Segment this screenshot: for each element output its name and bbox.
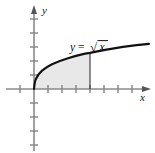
y-axis-label: y xyxy=(41,4,47,16)
x-axis-label: x xyxy=(139,91,145,103)
figure-container: y x y = √ x xyxy=(0,0,155,153)
equation-operator: = xyxy=(78,41,85,53)
equation-lhs: y xyxy=(69,41,76,54)
y-axis-arrow-icon xyxy=(31,5,37,14)
equation-radical-icon: √ xyxy=(90,40,98,55)
equation-radicand: x xyxy=(99,41,106,53)
sqrt-function-plot: y x y = √ x xyxy=(0,0,155,153)
